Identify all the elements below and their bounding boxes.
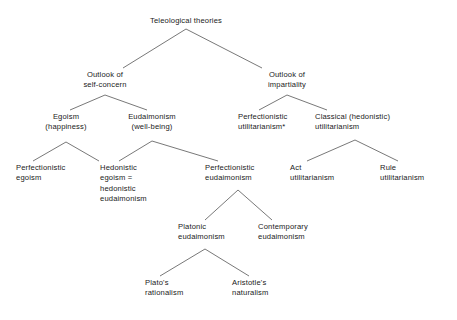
tree-edge-classical-hedonistic-utilitarianism-to-rule-utilitarianism [355,140,398,161]
tree-node-label-line: Outlook of [268,70,306,80]
tree-node-act-utilitarianism: Actutilitarianism [290,163,334,184]
tree-node-label-line: Contemporary [258,222,308,232]
tree-node-rule-utilitarianism: Ruleutilitarianism [380,163,424,184]
tree-node-label-line: Aristotle's [232,278,269,288]
tree-node-outlook-of-impartiality: Outlook ofimpartiality [268,70,306,91]
tree-node-label-line: Eudaimonism [128,112,176,122]
tree-node-label-line: Classical (hedonistic) [315,112,390,122]
tree-node-outlook-of-self-concern: Outlook ofself-concern [83,70,126,91]
tree-node-aristotles-naturalism: Aristotle'snaturalism [232,278,269,299]
tree-edge-egoism-happiness-to-perfectionistic-egoism [33,142,66,161]
tree-edge-platonic-eudaimonism-to-platos-rationalism [160,249,205,276]
tree-node-classical-hedonistic-utilitarianism: Classical (hedonistic)utilitarianism [315,112,390,133]
tree-node-hedonistic-egoism: Hedonisticegoism =hedonisticeudaimonism [100,163,147,205]
tree-node-label-line: Perfectionistic [205,163,255,173]
tree-edge-outlook-of-impartiality-to-perfectionistic-utilitarianism [259,95,287,110]
tree-node-label-line: eudaimonism [100,194,147,204]
tree-edge-classical-hedonistic-utilitarianism-to-act-utilitarianism [307,140,355,161]
tree-node-label-line: Rule [380,163,424,173]
tree-edge-teleological-theories-to-outlook-of-impartiality [186,29,262,68]
tree-node-label-line: Teleological theories [150,16,222,26]
tree-node-label-line: Hedonistic [100,163,147,173]
tree-edge-perfectionistic-eudaimonism-to-contemporary-eudaimonism [238,190,272,220]
tree-edge-eudaimonism-well-being-to-perfectionistic-eudaimonism [152,141,218,161]
tree-node-perfectionistic-utilitarianism: Perfectionisticutilitarianism* [238,112,288,133]
tree-node-label-line: hedonistic [100,184,147,194]
tree-node-label-line: Plato's [145,278,183,288]
tree-node-label-line: utilitarianism [290,173,334,183]
tree-node-perfectionistic-egoism: Perfectionisticegoism [16,163,66,184]
tree-node-label-line: self-concern [83,80,126,90]
tree-edge-outlook-of-self-concern-to-egoism-happiness [70,95,105,110]
teleological-theories-diagram: Teleological theoriesOutlook ofself-conc… [0,0,457,320]
tree-node-label-line: utilitarianism [315,122,390,132]
tree-node-label-line: impartiality [268,80,306,90]
tree-node-label-line: eudaimonism [258,232,308,242]
tree-node-label-line: naturalism [232,288,269,298]
tree-node-eudaimonism-well-being: Eudaimonism(well-being) [128,112,176,133]
tree-node-contemporary-eudaimonism: Contemporaryeudaimonism [258,222,308,243]
tree-node-label-line: (happiness) [45,122,86,132]
tree-edge-eudaimonism-well-being-to-hedonistic-egoism [119,141,152,161]
connector-lines-layer [0,0,457,320]
tree-node-label-line: Outlook of [83,70,126,80]
tree-edge-egoism-happiness-to-hedonistic-egoism [66,142,99,161]
tree-node-label-line: egoism = [100,173,147,183]
tree-node-egoism-happiness: Egoism(happiness) [45,112,86,133]
tree-node-platos-rationalism: Plato'srationalism [145,278,183,299]
tree-node-label-line: utilitarianism [380,173,424,183]
tree-node-label-line: Act [290,163,334,173]
tree-node-label-line: (well-being) [128,122,176,132]
tree-node-label-line: utilitarianism* [238,122,288,132]
tree-node-label-line: eudaimonism [205,173,255,183]
tree-edge-teleological-theories-to-outlook-of-self-concern [123,29,186,68]
tree-node-label-line: Platonic [178,222,225,232]
tree-node-label-line: egoism [16,173,66,183]
tree-node-perfectionistic-eudaimonism: Perfectionisticeudaimonism [205,163,255,184]
tree-node-platonic-eudaimonism: Platoniceudaimonism [178,222,225,243]
tree-edge-platonic-eudaimonism-to-aristotles-naturalism [205,249,249,276]
tree-edge-outlook-of-self-concern-to-eudaimonism-well-being [105,95,147,110]
tree-node-teleological-theories: Teleological theories [150,16,222,26]
tree-node-label-line: eudaimonism [178,232,225,242]
tree-node-label-line: Perfectionistic [238,112,288,122]
tree-node-label-line: Perfectionistic [16,163,66,173]
tree-edge-perfectionistic-eudaimonism-to-platonic-eudaimonism [205,190,238,220]
tree-node-label-line: rationalism [145,288,183,298]
tree-node-label-line: Egoism [45,112,86,122]
tree-edge-outlook-of-impartiality-to-classical-hedonistic-utilitarianism [287,95,327,110]
